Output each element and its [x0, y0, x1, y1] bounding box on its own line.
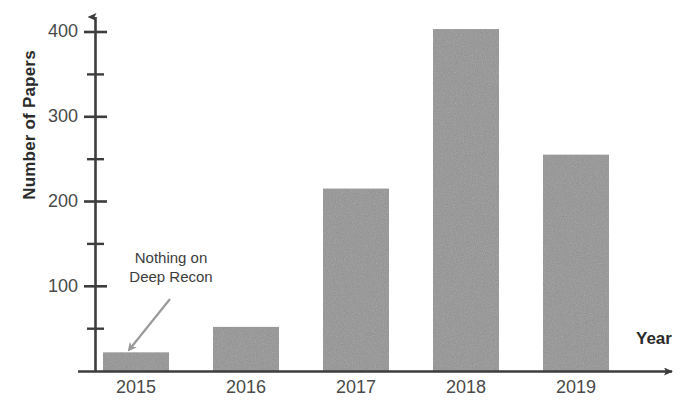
annotation-arrow: [129, 299, 170, 350]
y-tick-label-100: 100: [22, 277, 78, 295]
bar-2018: [433, 29, 499, 371]
bar-2016: [213, 327, 279, 371]
x-tick-label-2019: 2019: [521, 378, 631, 396]
x-tick-label-2016: 2016: [191, 378, 301, 396]
bar-2017: [323, 189, 389, 371]
bar-2015: [103, 352, 169, 371]
x-axis-title: Year: [636, 329, 672, 349]
x-tick-label-2015: 2015: [81, 378, 191, 396]
bar-2019: [543, 155, 609, 371]
annotation-label: Nothing on Deep Recon: [103, 248, 239, 286]
y-tick-label-200: 200: [22, 192, 78, 210]
y-tick-label-400: 400: [22, 22, 78, 40]
chart-container: Number of Papers Year 400 300 200 100 20…: [0, 0, 688, 406]
x-tick-label-2018: 2018: [411, 378, 521, 396]
x-tick-label-2017: 2017: [301, 378, 411, 396]
annotation-line-1: Nothing on: [103, 248, 239, 267]
chart-plot-area: [0, 0, 688, 406]
y-tick-label-300: 300: [22, 107, 78, 125]
bars-group: [103, 29, 609, 371]
annotation-line-2: Deep Recon: [103, 267, 239, 286]
